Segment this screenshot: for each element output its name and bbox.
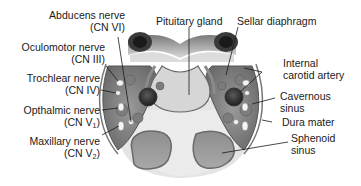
label-line: (CN V2) — [10, 147, 100, 163]
pituitary-gland — [146, 66, 214, 112]
ophthalmic-nerve — [118, 103, 124, 111]
label-pituitary-gland: Pituitary gland — [156, 15, 223, 27]
internal-carotid-right — [225, 88, 243, 106]
label-text: ) — [97, 116, 101, 128]
label-line: Opthalmic nerve — [10, 104, 100, 116]
label-line: (CN V1) — [10, 116, 100, 132]
label-line: Internal — [283, 57, 344, 69]
label-line: Pituitary gland — [156, 15, 223, 27]
label-internal-carotid-artery: Internal carotid artery — [283, 57, 344, 81]
label-ophthalmic-nerve: Opthalmic nerve (CN V1) — [10, 104, 100, 132]
label-line: Maxillary nerve — [10, 135, 100, 147]
label-line: sinus — [280, 102, 331, 114]
label-line: sinus — [291, 144, 335, 156]
cavernous-sinus-diagram: Abducens nerve (CN VI) Oculomotor nerve … — [0, 0, 361, 186]
label-text: (CN V — [64, 116, 93, 128]
label-oculomotor-nerve: Oculomotor nerve (CN III) — [10, 41, 105, 65]
label-line: Oculomotor nerve — [10, 41, 105, 53]
label-line: Sellar diaphragm — [237, 15, 316, 27]
label-sellar-diaphragm: Sellar diaphragm — [237, 15, 316, 27]
internal-carotid-left — [139, 88, 157, 106]
label-line: (CN IV) — [10, 84, 100, 96]
sellar-region — [128, 32, 238, 62]
label-line: Dura mater — [282, 116, 335, 128]
label-text: ) — [97, 147, 101, 159]
label-line: carotid artery — [283, 69, 344, 81]
label-line: (CN VI) — [40, 21, 125, 33]
label-dura-mater: Dura mater — [282, 116, 335, 128]
label-line: (CN III) — [10, 53, 105, 65]
label-line: Cavernous — [280, 90, 331, 102]
label-trochlear-nerve: Trochlear nerve (CN IV) — [10, 72, 100, 96]
label-abducens-nerve: Abducens nerve (CN VI) — [40, 9, 125, 33]
label-sphenoid-sinus: Sphenoid sinus — [291, 132, 335, 156]
trochlear-nerve — [116, 91, 121, 95]
label-line: Sphenoid — [291, 132, 335, 144]
label-cavernous-sinus: Cavernous sinus — [280, 90, 331, 114]
label-line: Trochlear nerve — [10, 72, 100, 84]
label-maxillary-nerve: Maxillary nerve (CN V2) — [10, 135, 100, 163]
label-text: (CN V — [64, 147, 93, 159]
label-line: Abducens nerve — [40, 9, 125, 21]
